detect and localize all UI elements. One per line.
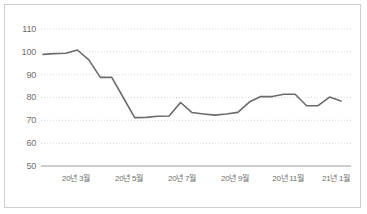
x-tick-label-2020-07: 20년 7월 [154, 174, 210, 184]
x-tick-label-2020-05: 20년 5월 [101, 174, 157, 184]
x-tick-label-2021-01: 21년 1월 [310, 174, 362, 184]
x-tick-label-2020-09: 20년 9월 [207, 174, 263, 184]
y-tick-label-50: 50 [10, 161, 36, 171]
x-tick-label-2020-11: 20년 11월 [259, 174, 317, 184]
x-tick-label-2020-03: 20년 3월 [48, 174, 104, 184]
data-line-series-1 [43, 50, 341, 118]
y-tick-label-80: 80 [10, 92, 36, 102]
y-tick-label-60: 60 [10, 138, 36, 148]
y-tick-label-70: 70 [10, 115, 36, 125]
line-chart: 110 100 90 80 70 60 50 20년 3월 20년 5월 20년… [0, 0, 367, 214]
y-tick-label-90: 90 [10, 70, 36, 80]
gridlines [41, 29, 351, 143]
y-tick-label-100: 100 [10, 47, 36, 57]
y-tick-label-110: 110 [10, 24, 36, 34]
